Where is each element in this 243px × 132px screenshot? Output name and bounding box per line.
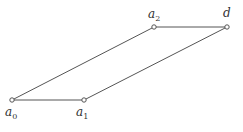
vertices <box>10 25 229 102</box>
vertex-a1 <box>82 98 86 102</box>
vertex-a2 <box>152 25 156 29</box>
vertex-d <box>225 25 229 29</box>
vertex-a0 <box>10 98 14 102</box>
labels: a0 a1 a2 d <box>5 6 231 121</box>
edges <box>12 27 227 100</box>
parallelogram-diagram: a0 a1 a2 d <box>0 0 243 132</box>
label-a1: a1 <box>76 105 88 121</box>
label-d: d <box>223 6 231 20</box>
edge-a2-a0 <box>12 27 154 100</box>
label-a2: a2 <box>148 7 160 23</box>
label-a0: a0 <box>5 105 17 121</box>
edge-a1-d <box>84 27 227 100</box>
